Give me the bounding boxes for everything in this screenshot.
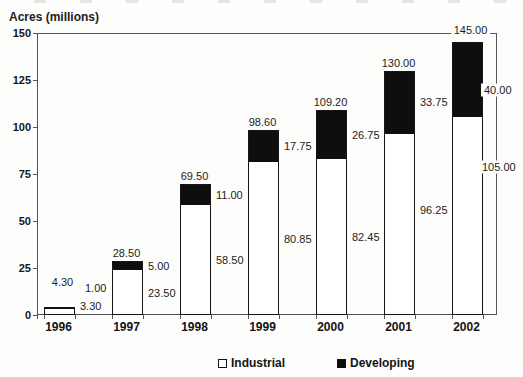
x-tick [347, 315, 348, 319]
y-axis-title: Acres (millions) [9, 10, 99, 24]
bar-developing-segment-1997 [113, 262, 142, 270]
x-tick-label-1999: 1999 [249, 320, 276, 334]
bar-group-1998 [180, 184, 211, 315]
industrial-value-label-2002: 105.00 [479, 161, 519, 174]
x-tick [143, 315, 144, 319]
x-tick [44, 315, 45, 319]
bar-group-2000 [316, 110, 347, 315]
developing-swatch-icon [337, 359, 346, 368]
x-tick-label-1998: 1998 [181, 320, 208, 334]
industrial-value-label-2000: 82.45 [352, 231, 380, 244]
y-tick [33, 80, 37, 81]
x-tick [279, 315, 280, 319]
legend-item-industrial: Industrial [218, 356, 285, 370]
x-tick-label-1997: 1997 [113, 320, 140, 334]
y-tick [33, 268, 37, 269]
y-tick-label-100: 100 [0, 121, 31, 133]
x-tick [75, 315, 76, 319]
y-tick [33, 127, 37, 128]
total-label-1998: 69.50 [181, 170, 209, 183]
y-tick [33, 33, 37, 34]
total-label-1997: 28.50 [113, 247, 141, 260]
x-tick-label-1996: 1996 [45, 320, 72, 334]
x-tick [483, 315, 484, 319]
industrial-value-label-1998: 58.50 [216, 254, 244, 267]
bar-developing-segment-1998 [181, 185, 210, 204]
y-tick-label-150: 150 [0, 27, 31, 39]
developing-value-label-1996: 1.00 [85, 281, 106, 294]
bar-developing-segment-1996 [45, 308, 74, 310]
legend: Industrial Developing [0, 353, 523, 371]
bar-developing-segment-2001 [385, 72, 414, 134]
bar-group-2002 [452, 42, 483, 315]
bar-group-1997 [112, 261, 143, 315]
developing-value-label-1999: 17.75 [284, 140, 312, 153]
industrial-swatch-icon [218, 359, 227, 368]
x-tick [248, 315, 249, 319]
x-tick-label-2002: 2002 [453, 320, 480, 334]
developing-value-label-1998: 11.00 [216, 188, 243, 201]
industrial-value-label-1999: 80.85 [284, 233, 312, 246]
legend-label-industrial: Industrial [231, 356, 285, 370]
total-label-2001: 130.00 [382, 56, 416, 69]
x-tick [415, 315, 416, 319]
x-tick [452, 315, 453, 319]
total-label-1996: 4.30 [52, 275, 73, 288]
bar-developing-segment-2002 [453, 43, 482, 117]
bar-group-2001 [384, 71, 415, 315]
industrial-value-label-2001: 96.25 [420, 204, 448, 217]
x-tick [37, 315, 38, 319]
y-tick-label-75: 75 [0, 168, 31, 180]
x-tick [211, 315, 212, 319]
total-label-2000: 109.20 [314, 95, 348, 108]
bar-group-1996 [44, 307, 75, 315]
legend-item-developing: Developing [337, 356, 415, 370]
bar-developing-segment-1999 [249, 131, 278, 163]
y-tick-label-50: 50 [0, 215, 31, 227]
bar-developing-segment-2000 [317, 111, 346, 160]
developing-value-label-1997: 5.00 [148, 260, 169, 273]
industrial-value-label-1996: 3.30 [80, 299, 101, 312]
developing-value-label-2002: 40.00 [481, 84, 515, 97]
legend-label-developing: Developing [350, 356, 415, 370]
cropped-title-remnant [0, 0, 523, 3]
x-tick [384, 315, 385, 319]
developing-value-label-2001: 33.75 [420, 96, 448, 109]
total-label-2002: 145.00 [451, 24, 491, 37]
total-label-1999: 98.60 [249, 115, 277, 128]
x-tick [316, 315, 317, 319]
x-tick [112, 315, 113, 319]
y-tick-label-25: 25 [0, 262, 31, 274]
y-tick-label-0: 0 [0, 309, 31, 321]
x-tick [180, 315, 181, 319]
y-tick [33, 174, 37, 175]
chart-page: Acres (millions) 02550751001251504.301.0… [0, 0, 523, 377]
x-tick-label-2001: 2001 [385, 320, 412, 334]
y-tick-label-125: 125 [0, 74, 31, 86]
x-tick-label-2000: 2000 [317, 320, 344, 334]
industrial-value-label-1997: 23.50 [148, 286, 176, 299]
bar-group-1999 [248, 130, 279, 315]
y-tick [33, 221, 37, 222]
developing-value-label-2000: 26.75 [352, 128, 380, 141]
